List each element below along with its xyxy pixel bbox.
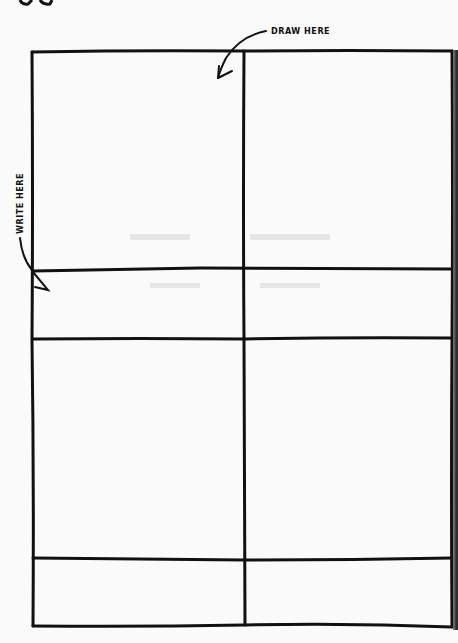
worksheet-page: DRAW HERE WRITE HERE	[0, 0, 458, 643]
draw-here-label: DRAW HERE	[271, 26, 330, 36]
show-through-text	[130, 234, 330, 288]
divider-caption-2	[33, 558, 452, 560]
divider-row	[33, 338, 452, 339]
curved-arrow-down-left-icon	[218, 31, 266, 78]
write-here-label: WRITE HERE	[15, 173, 25, 234]
frame-bottom	[33, 624, 452, 627]
page-edge-shadow	[453, 50, 458, 630]
panel-grid	[0, 0, 458, 643]
frame-top	[32, 51, 452, 53]
curved-arrow-down-icon	[20, 238, 48, 290]
